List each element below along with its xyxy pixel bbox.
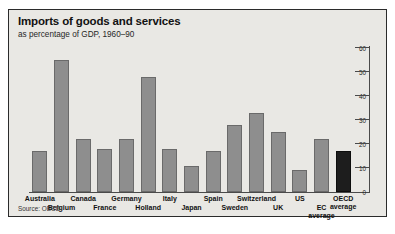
bar-slot [159, 48, 181, 192]
bar-slot [116, 48, 138, 192]
bar-canada[interactable] [76, 139, 91, 192]
bar-belgium[interactable] [54, 60, 69, 192]
bar-slot [72, 48, 94, 192]
bar-uk[interactable] [271, 132, 286, 192]
bar-australia[interactable] [32, 151, 47, 192]
bar-slot [181, 48, 203, 192]
x-label-oecd-average: OECDaverage [330, 195, 356, 211]
bar-germany[interactable] [119, 139, 134, 192]
y-tick-label: 0 [362, 189, 366, 196]
bar-slot [224, 48, 246, 192]
x-label-germany: Germany [111, 195, 141, 203]
source-note: Source: OECD [18, 205, 60, 213]
y-tick-mark [355, 47, 369, 48]
bar-sweden[interactable] [227, 125, 242, 192]
y-tick-mark [355, 119, 369, 120]
x-label-us: US [295, 195, 305, 203]
x-label-holland: Holland [135, 204, 161, 212]
x-label-australia: Australia [25, 195, 55, 203]
bar-slot [202, 48, 224, 192]
x-label-japan: Japan [181, 204, 201, 212]
bar-france[interactable] [97, 149, 112, 192]
y-tick-mark [355, 71, 369, 72]
y-tick-mark [355, 95, 369, 96]
bar-spain[interactable] [206, 151, 221, 192]
bar-slot [94, 48, 116, 192]
bar-slot [289, 48, 311, 192]
plot-area [29, 48, 354, 192]
bar-switzerland[interactable] [249, 113, 264, 192]
bar-slot [137, 48, 159, 192]
chart-header: Imports of goods and services as percent… [18, 15, 318, 40]
bar-oecd-average[interactable] [336, 151, 351, 192]
bar-slot [332, 48, 354, 192]
bar-japan[interactable] [184, 166, 199, 192]
x-label-sweden: Sweden [222, 204, 248, 212]
bar-slot [51, 48, 73, 192]
x-axis-labels: AustraliaBelgiumCanadaFranceGermanyHolla… [29, 194, 354, 220]
chart-subtitle: as percentage of GDP, 1960–90 [18, 29, 318, 40]
bar-slot [246, 48, 268, 192]
bar-italy[interactable] [162, 149, 177, 192]
y-axis-line [369, 46, 370, 193]
chart-title: Imports of goods and services [18, 15, 318, 28]
bar-holland[interactable] [141, 77, 156, 192]
y-tick-mark [355, 143, 369, 144]
x-label-italy: Italy [163, 195, 177, 203]
x-label-france: France [93, 204, 116, 212]
bar-us[interactable] [292, 170, 307, 192]
chart-figure: Imports of goods and services as percent… [8, 9, 387, 217]
bar-slot [267, 48, 289, 192]
bar-series [29, 48, 354, 192]
x-label-spain: Spain [204, 195, 223, 203]
x-label-switzerland: Switzerland [237, 195, 276, 203]
x-label-uk: UK [273, 204, 283, 212]
bar-slot [29, 48, 51, 192]
bar-ec-average[interactable] [314, 139, 329, 192]
x-axis-line [29, 192, 369, 193]
y-tick-mark [355, 167, 369, 168]
x-label-canada: Canada [71, 195, 96, 203]
bar-slot [311, 48, 333, 192]
